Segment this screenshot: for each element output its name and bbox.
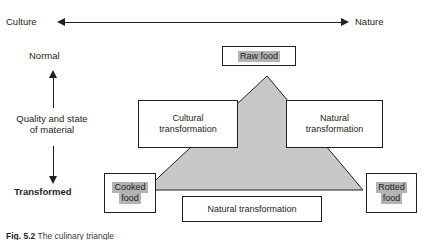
arrow-head-down-icon xyxy=(49,176,57,184)
figure-number: Fig. 5.2 xyxy=(6,231,35,240)
figure-caption-text: The culinary triangle xyxy=(38,231,115,240)
node-raw-food[interactable]: Raw food xyxy=(222,46,296,66)
axis-label-transformed: Transformed xyxy=(14,186,72,197)
axis-label-culture: Culture xyxy=(6,16,37,27)
arrow-shaft xyxy=(53,146,54,177)
figure-caption: Fig. 5.2 The culinary triangle xyxy=(6,231,114,240)
node-cooked-food-line2: food xyxy=(119,193,141,204)
node-cultural-transformation-label: Cultural transformation xyxy=(159,113,217,135)
arrow-shaft xyxy=(63,22,343,23)
node-natural-transformation-right-line2: transformation xyxy=(306,124,364,135)
node-natural-transformation-right-line1: Natural xyxy=(306,113,364,124)
node-rotted-food-label: Rotted food xyxy=(376,182,407,204)
node-natural-transformation-right-label: Natural transformation xyxy=(306,113,364,135)
node-rotted-food[interactable]: Rotted food xyxy=(366,173,417,213)
node-natural-transformation-right[interactable]: Natural transformation xyxy=(286,100,383,148)
culture-nature-arrow xyxy=(57,18,349,27)
node-cultural-transformation-line2: transformation xyxy=(159,124,217,135)
node-natural-transformation-bottom-label: Natural transformation xyxy=(207,204,296,215)
axis-label-quality-line2: of material xyxy=(0,124,104,135)
node-natural-transformation-bottom[interactable]: Natural transformation xyxy=(182,196,322,222)
node-rotted-food-line1: Rotted xyxy=(376,182,407,193)
node-cooked-food[interactable]: Cooked food xyxy=(104,173,156,213)
node-cultural-transformation[interactable]: Cultural transformation xyxy=(138,100,238,148)
axis-label-normal: Normal xyxy=(29,50,60,61)
node-raw-food-label: Raw food xyxy=(238,51,280,62)
node-rotted-food-line2: food xyxy=(381,193,403,204)
node-cultural-transformation-line1: Cultural xyxy=(159,113,217,124)
arrow-shaft xyxy=(53,77,54,108)
axis-label-quality-line1: Quality and state xyxy=(0,113,104,124)
node-cooked-food-label: Cooked food xyxy=(112,182,147,204)
quality-down-arrow-icon xyxy=(49,146,58,184)
figure-canvas: Culture Nature Normal Quality and state … xyxy=(0,0,423,240)
axis-label-nature: Nature xyxy=(355,16,384,27)
node-cooked-food-line1: Cooked xyxy=(112,182,147,193)
quality-up-arrow-icon xyxy=(49,70,58,108)
arrow-head-right-icon xyxy=(341,18,349,26)
